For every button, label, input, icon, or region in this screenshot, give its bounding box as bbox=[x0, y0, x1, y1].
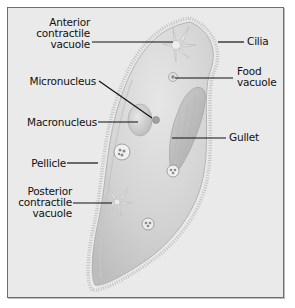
food-vacuole-middle bbox=[114, 144, 130, 160]
label-line: vacuole bbox=[18, 208, 72, 219]
micronucleus bbox=[153, 117, 160, 124]
cell-body bbox=[92, 22, 213, 285]
label-cilia: Cilia bbox=[247, 36, 269, 47]
label-anterior-contractile-vacuole: Anterior contractile vacuole bbox=[36, 17, 90, 50]
macronucleus bbox=[128, 104, 152, 136]
label-posterior-contractile-vacuole: Posterior contractile vacuole bbox=[18, 186, 72, 219]
food-vacuole-lower bbox=[142, 218, 154, 230]
label-micronucleus: Micronucleus bbox=[30, 76, 96, 87]
label-line: vacuole bbox=[237, 77, 276, 88]
food-vacuole-top bbox=[169, 73, 178, 82]
food-vacuole-gullet-end bbox=[167, 165, 179, 177]
label-pellicle: Pellicle bbox=[31, 158, 66, 169]
label-gullet: Gullet bbox=[229, 132, 259, 143]
label-macronucleus: Macronucleus bbox=[27, 117, 97, 128]
label-food-vacuole: Food vacuole bbox=[237, 66, 276, 88]
label-line: vacuole bbox=[36, 39, 90, 50]
